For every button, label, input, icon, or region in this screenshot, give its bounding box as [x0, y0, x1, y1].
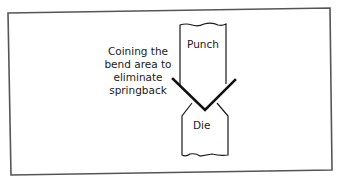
coining-callout: Coining the bend area to eliminate sprin…	[100, 45, 176, 97]
punch-label: Punch	[187, 38, 219, 51]
callout-line-2: bend area to	[100, 58, 176, 71]
callout-line-3: eliminate	[100, 71, 176, 84]
callout-line-4: springback	[100, 84, 176, 97]
die-label: Die	[193, 119, 210, 132]
callout-line-1: Coining the	[100, 45, 176, 58]
